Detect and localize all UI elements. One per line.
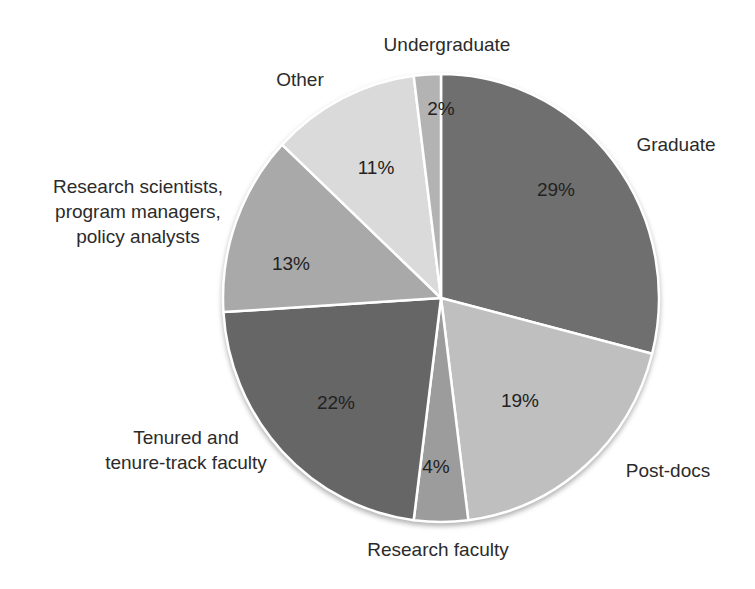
label-line: Other [276,69,324,90]
pie-slice-pct-other: 11% [358,157,395,178]
pie-chart-figure: 29%19%4%22%13%11%2%GraduatePost-docsRese… [0,0,755,589]
pie-slice-pct-graduate: 29% [537,179,575,200]
label-line: tenure-track faculty [105,452,267,473]
pie-slice-pct-post-docs: 19% [501,390,539,411]
pie-slice-pct-undergraduate: 2% [427,98,455,119]
pie-slice-name-research-faculty: Research faculty [367,539,509,560]
pie-slice-name-other: Other [276,69,324,90]
label-line: Research scientists, [53,176,223,197]
label-line: program managers, [55,201,221,222]
label-line: Graduate [636,134,715,155]
pie-slice-name-post-docs: Post-docs [626,460,710,481]
label-line: Post-docs [626,460,710,481]
pie-slice-name-tenured-and-tenure-track-faculty: Tenured andtenure-track faculty [105,427,267,473]
pie-slices [223,74,659,522]
pie-chart: 29%19%4%22%13%11%2%GraduatePost-docsRese… [0,0,755,589]
pie-slice-pct-tenured-and-tenure-track-faculty: 22% [317,392,355,413]
label-line: Tenured and [133,427,239,448]
pie-slice-pct-research-scientists-program-managers-policy-analysts: 13% [272,253,310,274]
label-line: Undergraduate [384,34,511,55]
pie-slice-name-graduate: Graduate [636,134,715,155]
pie-slice-name-research-scientists-program-managers-policy-analysts: Research scientists,program managers,pol… [53,176,223,247]
label-line: Research faculty [367,539,509,560]
pie-slice-pct-research-faculty: 4% [422,456,450,477]
pie-slice-name-undergraduate: Undergraduate [384,34,511,55]
label-line: policy analysts [76,226,200,247]
